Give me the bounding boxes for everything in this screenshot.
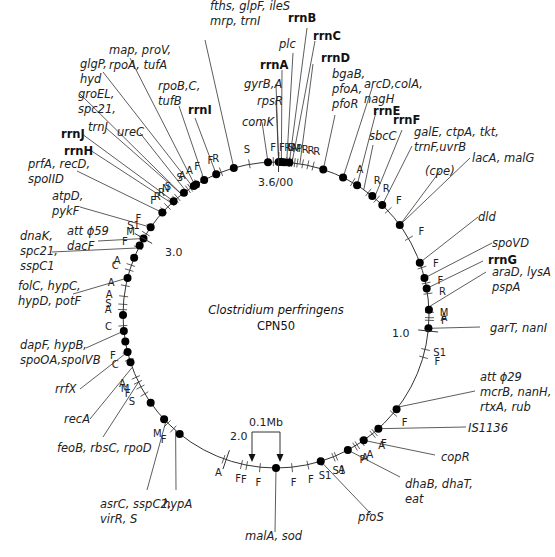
gene-locus-dot	[170, 197, 178, 205]
marker-letter: F	[435, 356, 441, 367]
scale-bar-label: 0.1Mb	[249, 416, 283, 429]
gene-locus-dot	[176, 430, 184, 438]
gene-leader	[378, 427, 466, 429]
marker-letter: F	[396, 195, 402, 206]
position-label: 1.0	[392, 327, 410, 340]
marker-letter: M	[126, 226, 135, 237]
gene-label: rrnJ	[61, 127, 85, 141]
gene-label: map, proV,rpoA, tufA	[109, 43, 171, 72]
gene-label: araD, lysApspA	[491, 265, 551, 294]
gene-label: rpsR	[257, 94, 283, 108]
gene-leader	[98, 239, 143, 242]
gene-locus-dot	[124, 348, 132, 356]
gene-label: att ϕ29mcrB, nanH,rtxA, rub	[480, 370, 551, 414]
marker-letter: C	[105, 321, 112, 332]
gene-label: prfA, recD,spoIID	[27, 157, 90, 186]
position-label: 3.0	[165, 246, 183, 259]
gene-leader	[77, 171, 162, 213]
arrow-down-icon	[277, 454, 284, 462]
gene-leader	[348, 450, 400, 477]
gene-label: atpD,pykF	[51, 189, 83, 218]
gene-locus-dot	[120, 327, 128, 335]
gene-label: rrnH	[64, 144, 93, 158]
gene-label: hypA	[163, 497, 192, 511]
marker-letter: S	[129, 396, 135, 407]
gene-label: rrfX	[55, 382, 78, 396]
gene-locus-dot	[285, 159, 293, 167]
gene-label: IS1136	[468, 421, 508, 435]
gene-leader	[130, 58, 195, 185]
gene-label: rrnB	[288, 11, 316, 25]
marker-letter: F	[308, 474, 314, 485]
gene-label: sbcC	[369, 129, 397, 143]
gene-locus-dot	[425, 306, 433, 314]
gene-leader	[321, 461, 372, 515]
gene-locus-dot	[378, 201, 386, 209]
gene-label: plc	[278, 37, 296, 51]
gene-label: lacA, malG	[472, 151, 534, 165]
gene-label: dld	[478, 210, 496, 224]
marker-letter: F	[270, 142, 276, 153]
scale-bar: 0.1Mb	[249, 416, 284, 462]
gene-label: recA	[64, 412, 90, 426]
position-tick	[223, 450, 230, 469]
gene-labels: fths, glpF, ileSmrp, trnImap, proV,rpoA,…	[18, 0, 551, 543]
marker-letter: A	[215, 467, 222, 478]
gene-locus-dot	[119, 311, 127, 319]
gene-leader	[82, 134, 174, 201]
gene-leader	[323, 115, 335, 169]
marker-letter: F	[291, 477, 297, 488]
marker-letter: F	[419, 226, 425, 237]
gene-label: copR	[441, 450, 470, 464]
gene-locus-dot	[192, 181, 200, 189]
gene-label: rrnI	[188, 103, 212, 117]
gene-locus-dot	[344, 446, 352, 454]
gene-label: feoB, rbsC, rpoD	[57, 441, 152, 455]
gene-label: glgP,hyd	[80, 57, 107, 86]
gene-locus-dot	[147, 399, 155, 407]
genome-map: SRFFAASSNRRFFS1MFACAASACFCAMFSMFAFFFFFS1…	[0, 0, 555, 557]
gene-locus-dot	[180, 189, 188, 197]
gene-label: comK	[242, 115, 276, 129]
marker-letter: F	[437, 275, 443, 286]
position-label: 2.0	[230, 430, 248, 443]
gene-locus-dot	[272, 464, 280, 472]
gene-label: garT, nanI	[490, 321, 548, 335]
marker-letter: F	[241, 474, 247, 485]
marker-letter: A	[105, 304, 112, 315]
gene-leader	[364, 145, 373, 190]
gene-label: groEL,spc21,	[78, 87, 116, 116]
gene-locus-dot	[264, 158, 272, 166]
gene-locus-dot	[317, 457, 325, 465]
gene-leader	[276, 100, 279, 162]
gene-locus-dot	[319, 165, 327, 173]
marker-letter: F	[433, 258, 439, 269]
marker-letter: F	[122, 236, 128, 247]
gene-leader	[52, 248, 138, 252]
marker-letter: S	[244, 144, 250, 155]
gene-label: ureC	[117, 125, 144, 139]
gene-label: dhaB, dhaT,eat	[405, 477, 473, 506]
arrow-down-icon	[249, 454, 256, 462]
gene-locus-dot	[396, 221, 404, 229]
gene-label: dnaK,spc21,sspC1	[20, 229, 58, 273]
marker-letter: A	[367, 449, 374, 460]
gene-label: (cpe)	[425, 164, 455, 178]
marker-tick	[292, 463, 293, 472]
gene-label: gyrB,A	[244, 77, 282, 91]
gene-locus-dot	[420, 274, 428, 282]
gene-label: rrnG	[488, 253, 517, 267]
gene-label: rrnD	[321, 51, 350, 65]
gene-locus-dot	[374, 425, 382, 433]
gene-leader	[400, 171, 440, 225]
gene-label: rrnA	[260, 58, 289, 72]
gene-label: rrnC	[313, 29, 341, 43]
gene-locus-dot	[130, 254, 138, 262]
gene-label: pfoS	[357, 510, 384, 524]
gene-label: galE, ctpA, tkt,trnF,uvrB	[414, 125, 499, 154]
marker-letter: F	[150, 195, 156, 206]
marker-letter: S1	[319, 470, 332, 481]
gene-label: rrnE	[373, 104, 401, 118]
gene-label: trnJ	[88, 120, 109, 134]
gene-leader	[364, 440, 435, 455]
